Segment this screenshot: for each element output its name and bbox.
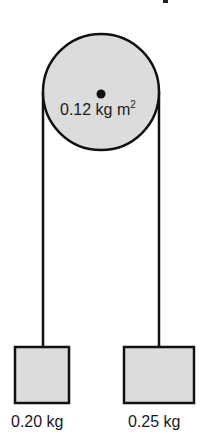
atwood-diagram: 0.12 kg m2 0.20 kg 0.25 kg — [0, 0, 204, 436]
pulley-inertia-label: 0.12 kg m2 — [60, 99, 136, 118]
right-mass-label: 0.25 kg — [128, 413, 180, 430]
left-mass-block — [15, 347, 69, 403]
cropped-text-fragment — [163, 0, 168, 3]
right-mass-block — [124, 347, 194, 403]
pulley-axle — [97, 90, 106, 99]
left-mass-label: 0.20 kg — [11, 413, 63, 430]
